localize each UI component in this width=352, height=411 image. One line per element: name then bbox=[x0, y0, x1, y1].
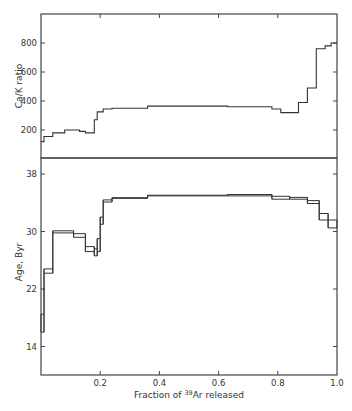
x-tick-label: 1.0 bbox=[330, 378, 344, 388]
bottom-panel-frame bbox=[41, 158, 337, 375]
top-y-axis-label: Ca/K ratio bbox=[14, 63, 24, 108]
age-step-series bbox=[41, 194, 337, 332]
x-tick-label: 0.4 bbox=[153, 378, 167, 388]
bottom-y-axis-label: Age, Byr bbox=[14, 243, 24, 282]
bottom-axis-ticks: 142230380.20.40.60.81.0 bbox=[26, 169, 344, 388]
top-y-tick-label: 200 bbox=[21, 125, 37, 135]
x-tick-label: 0.6 bbox=[212, 378, 226, 388]
bottom-y-tick-label: 30 bbox=[26, 227, 37, 237]
top-y-tick-label: 800 bbox=[21, 38, 37, 48]
x-label-superscript: 39 bbox=[184, 389, 192, 397]
bottom-y-tick-label: 22 bbox=[26, 284, 37, 294]
argon-release-spectrum-chart: 200400600800 142230380.20.40.60.81.0 Ca/… bbox=[0, 0, 352, 411]
top-axis-ticks: 200400600800 bbox=[21, 14, 337, 135]
x-axis-label: Fraction of 39Ar released bbox=[134, 389, 244, 400]
top-panel-frame bbox=[41, 14, 337, 158]
x-tick-label: 0.8 bbox=[271, 378, 285, 388]
bottom-y-tick-label: 14 bbox=[26, 342, 37, 352]
bottom-y-tick-label: 38 bbox=[26, 169, 37, 179]
x-label-prefix: Fraction of bbox=[134, 390, 184, 400]
x-tick-label: 0.2 bbox=[93, 378, 107, 388]
x-label-suffix: Ar released bbox=[193, 390, 244, 400]
ca-k-ratio-step-series bbox=[41, 43, 337, 142]
